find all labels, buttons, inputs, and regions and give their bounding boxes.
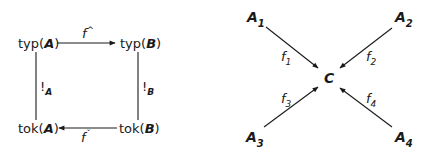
edge-subscript: 2	[371, 57, 377, 67]
node-typ-a: typ(A)	[18, 37, 59, 51]
edge-label-f-check: fˇ	[81, 131, 90, 146]
node-var: B	[145, 121, 155, 136]
node-var: A	[395, 129, 406, 145]
node-var: A	[395, 9, 406, 25]
left-diagram-edges	[0, 0, 428, 153]
node-suffix: )	[156, 36, 161, 51]
node-var: A	[247, 9, 258, 25]
node-a3: A3	[246, 130, 264, 146]
node-suffix: )	[54, 36, 59, 51]
node-typ-b: typ(B)	[120, 37, 161, 51]
edge-label-f3: f3	[281, 92, 291, 107]
node-subscript: 4	[406, 138, 413, 149]
node-subscript: 3	[257, 138, 264, 149]
check-mark: ˇ	[86, 129, 91, 139]
node-var: A	[44, 36, 54, 51]
node-subscript: 2	[406, 18, 413, 29]
edge-subscript: 4	[371, 99, 377, 109]
edge-label-f2: f2	[366, 50, 376, 65]
node-var: A	[44, 121, 54, 136]
node-prefix: tok(	[119, 121, 145, 136]
node-c: C	[324, 71, 334, 85]
node-tok-a: tok(A)	[18, 122, 59, 136]
node-suffix: )	[155, 121, 160, 136]
node-var: A	[246, 129, 257, 145]
node-var: B	[146, 36, 156, 51]
edge-subscript: 3	[286, 99, 292, 109]
node-a1: A1	[247, 10, 265, 26]
edge-label-bang-b: !B	[142, 80, 154, 95]
edge-label-bang-a: !A	[40, 80, 52, 95]
edge-label-f1: f1	[281, 50, 291, 65]
node-subscript: 1	[258, 18, 265, 29]
edge-label: f	[82, 26, 87, 41]
figure: typ(A) typ(B) tok(A) tok(B) f^ fˇ !A !B …	[0, 0, 428, 153]
edge-label: f	[281, 49, 286, 64]
node-prefix: typ(	[18, 36, 44, 51]
edge-label-f4: f4	[366, 92, 376, 107]
edge-label: f	[281, 91, 286, 106]
node-prefix: tok(	[18, 121, 44, 136]
edge-label-f-hat: f^	[82, 27, 94, 42]
node-suffix: )	[54, 121, 59, 136]
edge-label: f	[366, 49, 371, 64]
node-a2: A2	[395, 10, 413, 26]
center-var: C	[324, 70, 334, 86]
node-tok-b: tok(B)	[119, 122, 160, 136]
bang-subscript: B	[147, 87, 154, 97]
node-a4: A4	[395, 130, 413, 146]
arrow-f1	[266, 27, 318, 68]
edge-label: f	[366, 91, 371, 106]
hat-mark: ^	[87, 25, 95, 35]
edge-label: f	[81, 130, 86, 145]
edge-subscript: 1	[286, 57, 292, 67]
bang-subscript: A	[45, 87, 52, 97]
node-prefix: typ(	[120, 36, 146, 51]
